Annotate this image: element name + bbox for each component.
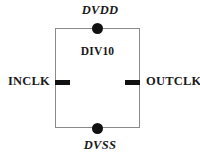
- port-label-dvdd: DVDD: [0, 4, 200, 17]
- diagram-canvas: DIV10 DVDD DVSS INCLK OUTCLK: [0, 0, 200, 157]
- outclk-terminal-bar-icon: [125, 80, 140, 85]
- block-name-label: DIV10: [55, 46, 140, 58]
- dvss-terminal-dot-icon: [92, 123, 103, 134]
- port-label-inclk: INCLK: [8, 75, 50, 88]
- inclk-terminal-bar-icon: [55, 80, 70, 85]
- port-label-outclk: OUTCLK: [146, 75, 200, 88]
- port-label-dvss: DVSS: [0, 139, 200, 152]
- block-outline: [55, 28, 140, 128]
- dvdd-terminal-dot-icon: [92, 23, 103, 34]
